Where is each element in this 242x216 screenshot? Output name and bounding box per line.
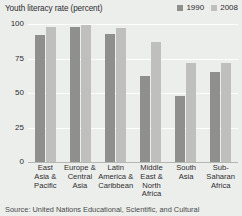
bar[interactable]	[140, 76, 150, 162]
y-tick-label-100: 100	[2, 19, 24, 28]
legend-swatch-1990	[177, 5, 183, 11]
bar-group	[168, 24, 203, 162]
x-axis: EastAsia &PacificEurope &CentralAsiaLati…	[28, 164, 238, 199]
bar[interactable]	[221, 63, 231, 162]
chart-title: Youth literacy rate (percent)	[5, 4, 102, 13]
bar[interactable]	[210, 72, 220, 162]
source-note: Source: United Nations Educational, Scie…	[5, 205, 199, 214]
y-tick-label-50: 50	[2, 88, 24, 97]
chart-figure: Youth literacy rate (percent) 1990 2008 …	[0, 0, 242, 216]
bar[interactable]	[151, 42, 161, 162]
bar[interactable]	[46, 27, 56, 162]
gridline-0	[28, 162, 238, 163]
y-tick-label-0: 0	[2, 157, 24, 166]
legend-entry-1990[interactable]: 1990	[177, 3, 204, 12]
plot-area	[28, 24, 238, 162]
bar-group	[203, 24, 238, 162]
bar-group	[98, 24, 133, 162]
x-tick-label: Sub-SaharanAfrica	[203, 164, 238, 199]
x-tick-label: LatinAmerica &Caribbean	[97, 164, 134, 199]
bar[interactable]	[70, 27, 80, 162]
x-tick-label: SouthAsia	[169, 164, 204, 199]
bar-group	[28, 24, 63, 162]
chart-legend: 1990 2008	[177, 3, 238, 12]
x-tick-label: Europe &CentralAsia	[63, 164, 98, 199]
legend-label-2008: 2008	[220, 3, 238, 12]
y-tick-label-25: 25	[2, 123, 24, 132]
bar-group	[63, 24, 98, 162]
x-tick-label: MiddleEast &NorthAfrica	[134, 164, 169, 199]
y-tick-label-75: 75	[2, 54, 24, 63]
legend-swatch-2008	[211, 5, 217, 11]
legend-entry-2008[interactable]: 2008	[211, 3, 238, 12]
bar[interactable]	[186, 63, 196, 162]
legend-label-1990: 1990	[186, 3, 204, 12]
x-tick-label: EastAsia &Pacific	[28, 164, 63, 199]
bar[interactable]	[175, 96, 185, 162]
bar[interactable]	[35, 35, 45, 162]
bar[interactable]	[105, 34, 115, 162]
bar[interactable]	[81, 25, 91, 162]
y-axis: 1007550250	[0, 24, 24, 162]
bars-layer	[28, 24, 238, 162]
bar[interactable]	[116, 28, 126, 162]
bar-group	[133, 24, 168, 162]
